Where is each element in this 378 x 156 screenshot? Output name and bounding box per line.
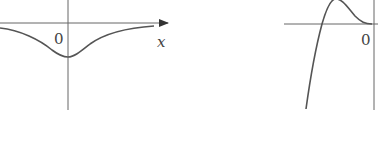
left-origin-label: 0	[54, 30, 64, 48]
right-origin-label: 0	[361, 31, 371, 49]
right-curve	[306, 0, 372, 109]
left-x-axis-label: x	[157, 33, 166, 51]
diagram-canvas: 0 x 0	[0, 0, 378, 156]
left-curve	[0, 26, 154, 57]
left-graph: 0 x	[0, 0, 168, 110]
right-graph: 0	[284, 0, 378, 110]
